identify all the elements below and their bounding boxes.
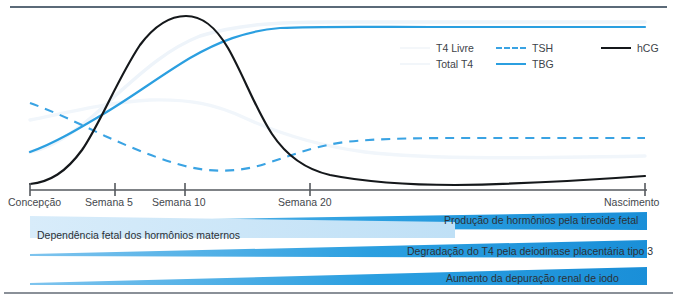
- legend-label-t4-livre: T4 Livre: [436, 42, 474, 54]
- axis-label-semana-20: Semana 20: [278, 196, 332, 208]
- legend-item-tsh: TSH: [496, 40, 601, 56]
- axis-label-semana-10: Semana 10: [152, 196, 206, 208]
- axis-label-concepcao: Concepção: [8, 196, 61, 208]
- process-bar-label-dependencia-fetal-hormonios-maternos: Dependência fetal dos hormônios maternos: [37, 229, 240, 241]
- axis-label-semana-5: Semana 5: [85, 196, 133, 208]
- legend-swatch-t4-livre-icon: [400, 42, 430, 54]
- legend-item-t4-livre: T4 Livre: [400, 40, 496, 56]
- legend-item-hcg: hCG: [601, 40, 671, 56]
- chart-legend: T4 Livre Total T4 TSH TBG hCG: [400, 38, 650, 78]
- legend-swatch-tbg-icon: [496, 58, 526, 70]
- process-bar-label-degradacao-t4-deiodinase-placentaria: Degradação do T4 pela deiodinase placent…: [407, 245, 653, 257]
- legend-label-hcg: hCG: [637, 42, 659, 54]
- legend-swatch-hcg-icon: [601, 42, 631, 54]
- legend-swatch-tsh-icon: [496, 42, 526, 54]
- process-bar-label-aumento-depuracao-renal-iodo: Aumento da depuração renal de iodo: [446, 272, 619, 284]
- curve-tsh: [30, 103, 645, 171]
- legend-label-tbg: TBG: [532, 58, 554, 70]
- curve-t4-livre: [30, 100, 645, 158]
- legend-item-total-t4: Total T4: [400, 56, 496, 72]
- legend-label-tsh: TSH: [532, 42, 553, 54]
- process-bar-label-producao-hormonios-tireoide-fetal: Produção de hormônios pela tireoide feta…: [444, 214, 638, 226]
- legend-swatch-total-t4-icon: [400, 58, 430, 70]
- legend-item-tbg: TBG: [496, 56, 601, 72]
- legend-label-total-t4: Total T4: [436, 58, 473, 70]
- axis-label-nascimento: Nascimento: [604, 196, 659, 208]
- chart-figure: T4 Livre Total T4 TSH TBG hCG Concepção …: [0, 0, 677, 305]
- bottom-divider-rule: [4, 292, 673, 294]
